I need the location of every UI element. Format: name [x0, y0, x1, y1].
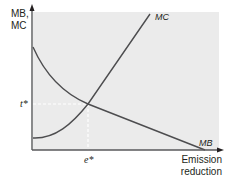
- chart: MB, MC Emission reduction MC MB t* e*: [0, 0, 230, 179]
- x-axis-label-line1: Emission: [181, 154, 222, 165]
- y-axis-label-line2: MC: [11, 20, 27, 31]
- y-axis-arrow-icon: [30, 4, 35, 11]
- mc-label: MC: [155, 12, 169, 22]
- y-axis-label-line1: MB,: [11, 8, 29, 19]
- t-star-label: t*: [20, 98, 28, 109]
- x-axis-arrow-icon: [217, 148, 224, 153]
- x-axis-label-line2: reduction: [181, 166, 222, 177]
- mb-label: MB: [199, 138, 213, 148]
- e-star-label: e*: [84, 154, 93, 165]
